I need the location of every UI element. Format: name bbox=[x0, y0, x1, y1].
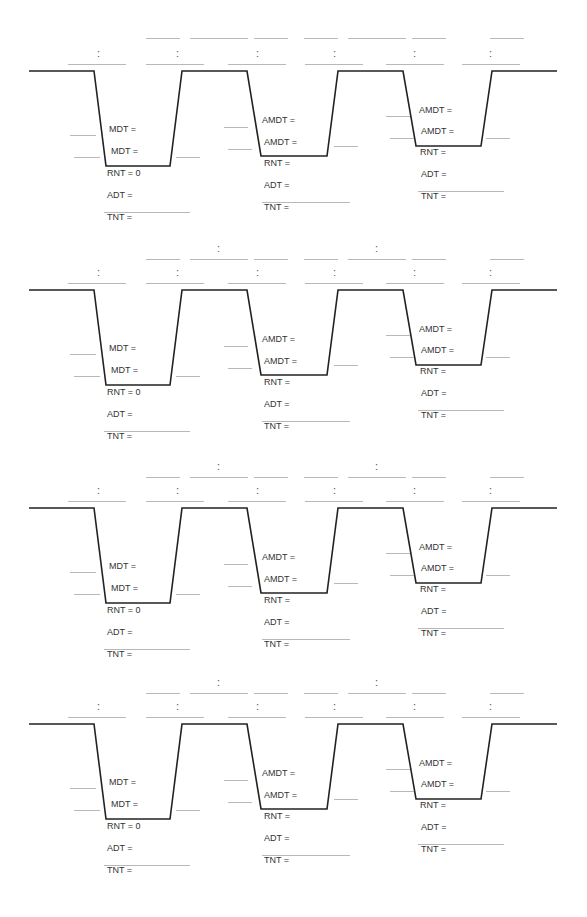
fill-in-blank[interactable] bbox=[74, 376, 100, 377]
fill-in-blank[interactable] bbox=[490, 259, 524, 260]
dive-profile-1: ::::::MDT =MDT =RNT = 0ADT =TNT =AMDT =A… bbox=[0, 0, 587, 220]
fill-in-blank[interactable] bbox=[386, 501, 444, 502]
fill-in-blank[interactable] bbox=[70, 572, 96, 573]
fill-in-blank[interactable] bbox=[386, 717, 444, 718]
fill-in-blank[interactable] bbox=[190, 477, 248, 478]
fill-in-blank[interactable] bbox=[334, 146, 358, 147]
fill-in-blank[interactable] bbox=[348, 693, 406, 694]
dive1-mdt-label: MDT = bbox=[109, 124, 136, 134]
fill-in-blank[interactable] bbox=[386, 335, 410, 336]
fill-in-blank[interactable] bbox=[190, 693, 248, 694]
fill-in-blank[interactable] bbox=[176, 376, 200, 377]
fill-in-blank[interactable] bbox=[304, 477, 338, 478]
fill-in-blank[interactable] bbox=[486, 138, 510, 139]
fill-in-blank[interactable] bbox=[486, 791, 510, 792]
fill-in-blank[interactable] bbox=[176, 810, 200, 811]
fill-in-blank[interactable] bbox=[228, 64, 286, 65]
fill-in-blank[interactable] bbox=[348, 477, 406, 478]
fill-in-blank[interactable] bbox=[305, 717, 363, 718]
fill-in-blank[interactable] bbox=[254, 477, 288, 478]
fill-in-blank[interactable] bbox=[386, 553, 410, 554]
fill-in-blank[interactable] bbox=[462, 283, 520, 284]
fill-in-blank[interactable] bbox=[304, 38, 338, 39]
time-colon: : bbox=[176, 267, 179, 277]
fill-in-blank[interactable] bbox=[486, 357, 510, 358]
fill-in-blank[interactable] bbox=[146, 38, 180, 39]
fill-in-blank[interactable] bbox=[390, 791, 414, 792]
fill-in-blank[interactable] bbox=[146, 283, 204, 284]
fill-in-blank[interactable] bbox=[386, 64, 444, 65]
fill-in-blank[interactable] bbox=[412, 259, 446, 260]
fill-in-blank[interactable] bbox=[412, 477, 446, 478]
fill-in-blank[interactable] bbox=[224, 346, 248, 347]
fill-in-blank[interactable] bbox=[304, 693, 338, 694]
fill-in-blank[interactable] bbox=[74, 594, 100, 595]
dive2-amdt-label: AMDT = bbox=[264, 137, 297, 147]
fill-in-blank[interactable] bbox=[68, 283, 126, 284]
time-colon: : bbox=[489, 48, 492, 58]
fill-in-blank[interactable] bbox=[254, 259, 288, 260]
dive1-mdt-label: MDT = bbox=[111, 583, 138, 593]
fill-in-blank[interactable] bbox=[390, 357, 414, 358]
fill-in-blank[interactable] bbox=[146, 259, 180, 260]
fill-in-blank[interactable] bbox=[390, 138, 414, 139]
fill-in-blank[interactable] bbox=[228, 802, 252, 803]
fill-in-blank[interactable] bbox=[228, 717, 286, 718]
fill-in-blank[interactable] bbox=[305, 283, 363, 284]
fill-in-blank[interactable] bbox=[70, 354, 96, 355]
fill-in-blank[interactable] bbox=[490, 693, 524, 694]
fill-in-blank[interactable] bbox=[146, 477, 180, 478]
fill-in-blank[interactable] bbox=[146, 501, 204, 502]
fill-in-blank[interactable] bbox=[412, 38, 446, 39]
fill-in-blank[interactable] bbox=[305, 501, 363, 502]
fill-in-blank[interactable] bbox=[386, 283, 444, 284]
fill-in-blank[interactable] bbox=[228, 586, 252, 587]
fill-in-blank[interactable] bbox=[334, 583, 358, 584]
fill-in-blank[interactable] bbox=[228, 283, 286, 284]
fill-in-blank[interactable] bbox=[224, 780, 248, 781]
dive-profile-3: ::::::::MDT =MDT =RNT = 0ADT =TNT =AMDT … bbox=[0, 437, 587, 657]
dive1-adt-label: ADT = bbox=[107, 627, 133, 637]
fill-in-blank[interactable] bbox=[68, 64, 126, 65]
fill-in-blank[interactable] bbox=[334, 799, 358, 800]
fill-in-blank[interactable] bbox=[348, 38, 406, 39]
fill-in-blank[interactable] bbox=[254, 38, 288, 39]
fill-in-blank[interactable] bbox=[176, 157, 200, 158]
time-colon: : bbox=[256, 485, 259, 495]
fill-in-blank[interactable] bbox=[68, 717, 126, 718]
fill-in-blank[interactable] bbox=[190, 259, 248, 260]
fill-in-blank[interactable] bbox=[146, 64, 204, 65]
fill-in-blank[interactable] bbox=[74, 157, 100, 158]
fill-in-blank[interactable] bbox=[70, 135, 96, 136]
fill-in-blank[interactable] bbox=[305, 64, 363, 65]
fill-in-blank[interactable] bbox=[224, 127, 248, 128]
fill-in-blank[interactable] bbox=[228, 368, 252, 369]
fill-in-blank[interactable] bbox=[146, 693, 180, 694]
fill-in-blank[interactable] bbox=[304, 259, 338, 260]
fill-in-blank[interactable] bbox=[146, 717, 204, 718]
fill-in-blank[interactable] bbox=[386, 116, 410, 117]
fill-in-blank[interactable] bbox=[190, 38, 248, 39]
fill-in-blank[interactable] bbox=[334, 365, 358, 366]
fill-in-blank[interactable] bbox=[386, 769, 410, 770]
fill-in-blank[interactable] bbox=[228, 149, 252, 150]
fill-in-blank[interactable] bbox=[254, 693, 288, 694]
fill-in-blank[interactable] bbox=[224, 564, 248, 565]
time-colon: : bbox=[489, 485, 492, 495]
fill-in-blank[interactable] bbox=[176, 594, 200, 595]
fill-in-blank[interactable] bbox=[348, 259, 406, 260]
fill-in-blank[interactable] bbox=[490, 477, 524, 478]
fill-in-blank[interactable] bbox=[68, 501, 126, 502]
fill-in-blank[interactable] bbox=[228, 501, 286, 502]
fill-in-blank[interactable] bbox=[74, 810, 100, 811]
fill-in-blank[interactable] bbox=[462, 717, 520, 718]
fill-in-blank[interactable] bbox=[486, 575, 510, 576]
time-colon: : bbox=[413, 701, 416, 711]
dive1-mdt-label: MDT = bbox=[109, 343, 136, 353]
fill-in-blank[interactable] bbox=[412, 693, 446, 694]
fill-in-blank[interactable] bbox=[390, 575, 414, 576]
fill-in-blank[interactable] bbox=[490, 38, 524, 39]
fill-in-blank[interactable] bbox=[462, 64, 520, 65]
fill-in-blank[interactable] bbox=[70, 788, 96, 789]
fill-in-blank[interactable] bbox=[462, 501, 520, 502]
